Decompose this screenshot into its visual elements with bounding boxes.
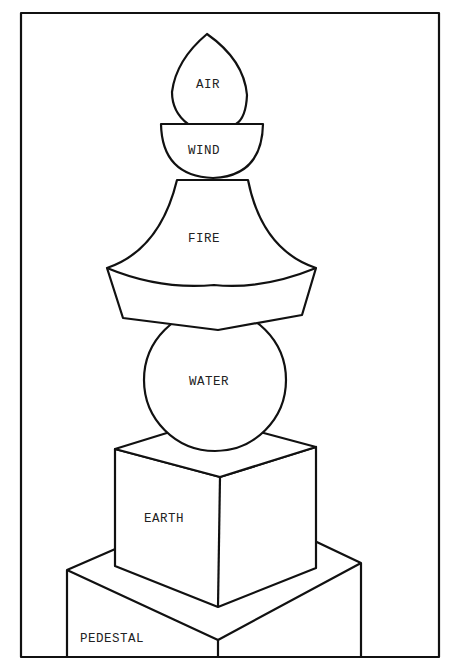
wind-bowl: WIND [161,124,263,178]
label-water: WATER [189,375,229,389]
label-air: AIR [196,78,220,92]
label-wind: WIND [188,144,220,158]
label-fire: FIRE [188,232,220,246]
label-pedestal: PEDESTAL [80,632,144,646]
fire-outline [107,180,316,330]
label-earth: EARTH [144,512,184,526]
air-jewel: AIR [172,34,247,124]
pagoda-diagram: PEDESTAL EARTH WATER FIRE WIND AIR [0,0,451,671]
fire-roof: FIRE [107,180,316,330]
